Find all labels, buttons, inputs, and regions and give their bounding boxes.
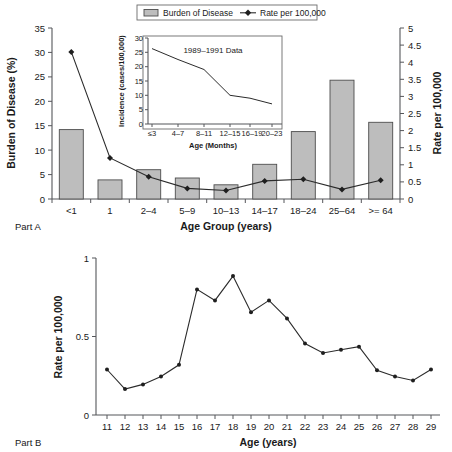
part-b-caption: Part B xyxy=(15,437,41,448)
part-a-ylabel: Burden of Disease (%) xyxy=(5,57,17,168)
part-a-y2tick-2: 2 xyxy=(408,125,413,136)
inset-xtick-0: ≤3 xyxy=(148,129,156,138)
part-b-ylabel: Rate per 100,000 xyxy=(52,295,64,378)
part-b-xtick-16: 16 xyxy=(192,421,203,432)
part-a-ytick-35: 35 xyxy=(34,23,45,34)
part-b-xtick-28: 28 xyxy=(408,421,419,432)
part-a-y2tick-3: 3 xyxy=(408,91,413,102)
part-a-right-axis: 0 0.5 1 1.5 2 2.5 3 3.5 4 4.5 5 Rate per… xyxy=(400,23,443,205)
part-b-xtick-19: 19 xyxy=(246,421,257,432)
part-a-xtick-7: 25–64 xyxy=(329,205,355,216)
part-a-ytick-15: 15 xyxy=(34,120,45,131)
inset-ytick-25: 25 xyxy=(135,48,143,57)
part-b-xlabel: Age (years) xyxy=(239,436,296,448)
inset-ytick-15: 15 xyxy=(135,77,143,86)
part-a-xlabel: Age Group (years) xyxy=(180,220,272,232)
part-a-xtick-0: <1 xyxy=(66,205,77,216)
part-b-xtick-23: 23 xyxy=(318,421,329,432)
part-a-xtick-4: 10–13 xyxy=(213,205,239,216)
part-b-xtick-29: 29 xyxy=(426,421,437,432)
part-a-caption: Part A xyxy=(15,221,42,232)
inset-xlabel: Age (Months) xyxy=(189,141,237,150)
inset-xtick-5: 20–23 xyxy=(262,129,283,138)
bar-1 xyxy=(98,180,122,199)
part-a-x-ticks xyxy=(52,199,400,203)
part-b-xtick-12: 12 xyxy=(120,421,131,432)
part-b-xtick-24: 24 xyxy=(336,421,347,432)
inset-ytick-5: 5 xyxy=(139,105,143,114)
part-a-y2tick-3p5: 3.5 xyxy=(408,74,421,85)
part-a-ytick-20: 20 xyxy=(34,96,45,107)
inset-xtick-1: 4–7 xyxy=(172,129,185,138)
inset-xtick-2: 8–11 xyxy=(196,129,212,138)
part-a-panel: Burden of Disease Rate per 100,000 xyxy=(5,5,443,232)
bar-ge64 xyxy=(369,122,393,199)
part-a-xtick-8: >= 64 xyxy=(369,205,393,216)
part-b-panel: 0 0.5 1 Rate per 100,000 xyxy=(15,253,440,449)
part-a-xtick-3: 5–9 xyxy=(179,205,195,216)
part-a-ytick-0: 0 xyxy=(40,194,45,205)
part-a-y2tick-5: 5 xyxy=(408,23,413,34)
part-b-xtick-18: 18 xyxy=(228,421,239,432)
two-panel-figure: Burden of Disease Rate per 100,000 xyxy=(0,0,452,452)
part-b-ytick-0p5: 0.5 xyxy=(76,331,89,342)
inset-annotation: 1989–1991 Data xyxy=(183,46,243,55)
inset-xtick-4: 16–19 xyxy=(242,129,263,138)
part-b-line xyxy=(107,276,431,389)
figure-svg: Burden of Disease Rate per 100,000 xyxy=(0,0,452,452)
figure-root: Burden of Disease Rate per 100,000 xyxy=(0,0,452,452)
legend-label-burden: Burden of Disease xyxy=(163,8,233,18)
part-b-y-axis: 0 0.5 1 Rate per 100,000 xyxy=(52,253,96,421)
inset-ytick-0: 0 xyxy=(139,120,143,129)
part-a-right-ticks xyxy=(400,28,404,199)
part-a-y2tick-4: 4 xyxy=(408,57,413,68)
part-b-xtick-27: 27 xyxy=(390,421,401,432)
inset-ytick-10: 10 xyxy=(135,91,143,100)
part-b-xtick-20: 20 xyxy=(264,421,275,432)
part-a-y2label: Rate per 100,000 xyxy=(431,71,443,154)
legend: Burden of Disease Rate per 100,000 xyxy=(137,5,326,20)
part-a-ytick-5: 5 xyxy=(40,169,45,180)
part-b-xtick-21: 21 xyxy=(282,421,293,432)
part-a-y2tick-4p5: 4.5 xyxy=(408,40,421,51)
part-a-inset: 0 5 10 15 20 25 30 Incidence (cases/100,… xyxy=(117,34,282,150)
part-b-series xyxy=(105,274,433,391)
part-a-ytick-10: 10 xyxy=(34,145,45,156)
part-a-xtick-1: 1 xyxy=(107,205,112,216)
part-b-xtick-22: 22 xyxy=(300,421,311,432)
bar-lt1 xyxy=(59,130,83,199)
part-b-xtick-17: 17 xyxy=(210,421,221,432)
part-a-y2tick-0p5: 0.5 xyxy=(408,176,421,187)
part-b-markers xyxy=(105,274,433,391)
part-a-left-axis: 0 5 10 15 20 25 30 35 Burden of Disease … xyxy=(5,23,52,205)
part-b-xtick-15: 15 xyxy=(174,421,185,432)
part-b-xtick-13: 13 xyxy=(138,421,149,432)
bar-18-24 xyxy=(291,132,315,199)
part-a-xtick-6: 18–24 xyxy=(290,205,316,216)
part-a-y2tick-2p5: 2.5 xyxy=(408,108,421,119)
part-b-xtick-14: 14 xyxy=(156,421,167,432)
part-b-xtick-26: 26 xyxy=(372,421,383,432)
inset-ytick-30: 30 xyxy=(135,34,143,43)
bar-25-64 xyxy=(330,80,354,199)
part-a-left-ticks xyxy=(48,28,52,199)
part-a-ytick-30: 30 xyxy=(34,47,45,58)
part-b-x-axis: 11 12 13 14 15 16 17 18 19 20 21 22 23 2… xyxy=(96,415,440,448)
inset-xtick-3: 12–15 xyxy=(220,129,241,138)
part-b-xtick-11: 11 xyxy=(102,421,112,432)
part-b-ytick-1: 1 xyxy=(84,253,89,264)
part-a-y2tick-0: 0 xyxy=(408,194,413,205)
part-a-ytick-25: 25 xyxy=(34,71,45,82)
part-b-xtick-25: 25 xyxy=(354,421,365,432)
legend-label-rate: Rate per 100,000 xyxy=(260,8,326,18)
part-a-xtick-2: 2–4 xyxy=(141,205,157,216)
inset-ylabel: Incidence (cases/100,000) xyxy=(117,35,126,127)
part-b-ytick-0: 0 xyxy=(84,410,89,421)
inset-ytick-20: 20 xyxy=(135,62,143,71)
part-a-x-axis: <1 1 2–4 5–9 10–13 14–17 18–24 25–64 >= … xyxy=(52,199,400,232)
part-b-x-ticks xyxy=(107,415,431,419)
part-a-y2tick-1: 1 xyxy=(408,159,413,170)
part-a-xtick-5: 14–17 xyxy=(251,205,277,216)
legend-swatch-burden xyxy=(144,10,158,17)
part-a-y2tick-1p5: 1.5 xyxy=(408,142,421,153)
